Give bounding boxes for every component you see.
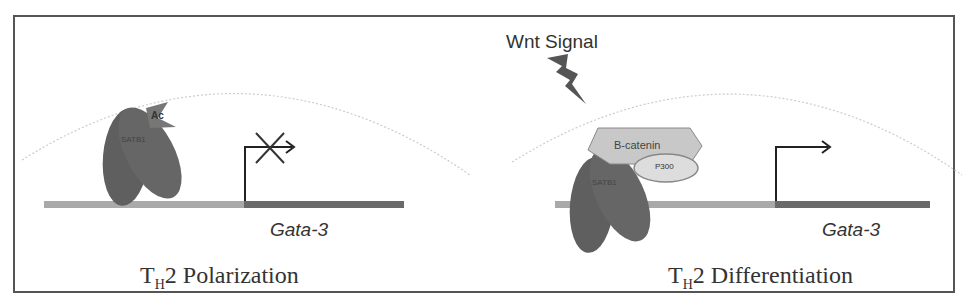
gene-label-left: Gata-3 bbox=[270, 219, 328, 241]
satb1-left-label: SATB1 bbox=[121, 135, 146, 144]
acetyl-label: Ac bbox=[151, 110, 164, 121]
dna-gene-left bbox=[244, 201, 404, 208]
wnt-lightning-icon bbox=[547, 54, 586, 104]
satb1-right-label: SATB1 bbox=[592, 178, 617, 187]
gene-label-right: Gata-3 bbox=[822, 219, 880, 241]
wnt-signal-label: Wnt Signal bbox=[506, 31, 598, 53]
p300-label: P300 bbox=[655, 162, 674, 171]
dna-promoter-left bbox=[44, 201, 244, 208]
dna-gene-right bbox=[775, 201, 930, 208]
promoter-arrow-left-icon bbox=[245, 147, 292, 201]
beta-catenin-label: B-catenin bbox=[614, 139, 660, 151]
nucleus-arc-right bbox=[512, 94, 962, 175]
title-right: TH2 Differentiation bbox=[668, 262, 853, 293]
title-left: TH2 Polarization bbox=[140, 262, 299, 293]
promoter-arrow-right-icon bbox=[776, 147, 828, 201]
